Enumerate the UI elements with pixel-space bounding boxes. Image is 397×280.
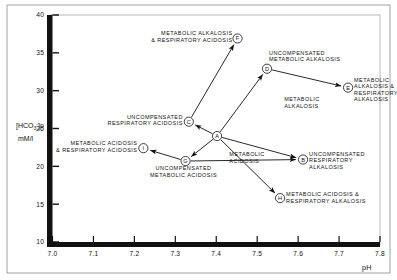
y-tick-label: 10 [36, 238, 44, 245]
data-point-a: A [212, 131, 221, 140]
point-label-line-e: RESPIRATORY [354, 90, 397, 96]
region-label-line: ACIDOSIS [229, 158, 259, 164]
point-label-line-e: ALKALOSIS [354, 96, 388, 102]
point-label-line-d: UNCOMPENSATED [269, 50, 325, 56]
x-axis-spine [47, 242, 380, 247]
region-label-line: METABOLIC [284, 96, 319, 102]
point-letter: F [236, 35, 240, 41]
point-letter: E [346, 85, 350, 91]
chart-svg: 10152025303540 7.07.17.27.37.47.57.67.77… [0, 0, 397, 280]
point-letter: D [265, 66, 269, 72]
data-point-b: B [298, 155, 307, 164]
region-label-line: ALKALOSIS [284, 103, 318, 109]
x-tick-label: 7.8 [375, 250, 385, 257]
point-label-line-c: RESPIRATORY ACIDOSIS [108, 120, 183, 126]
point-letter: B [301, 157, 305, 163]
point-label-line-b: UNCOMPENSATED [309, 151, 365, 157]
data-point-f: F [233, 34, 242, 43]
data-point-i: I [139, 144, 148, 153]
point-label-line-e: ALKALOSIS & [354, 83, 394, 89]
point-label-line-i: METABOLIC ACIDOSIS [70, 140, 137, 146]
data-point-e: E [343, 83, 352, 92]
point-letter: A [215, 133, 219, 139]
point-label-line-e: METABOLIC [354, 77, 389, 83]
y-tick-label: 30 [36, 87, 44, 94]
x-tick-label: 7.7 [334, 250, 344, 257]
data-point-d: D [262, 64, 271, 73]
y-tick-label: 20 [36, 163, 44, 170]
point-label-line-g: UNCOMPENSATED [156, 165, 212, 171]
y-tick-label: 40 [36, 11, 44, 18]
point-label-line-i: & RESPIRATORY ACIDOSIS [56, 147, 137, 153]
x-tick-label: 7.1 [89, 250, 99, 257]
region-label-line: METABOLIC [229, 151, 264, 157]
point-label-line-g: METABOLIC ACIDOSIS [150, 172, 217, 178]
y-tick-label: 35 [36, 49, 44, 56]
x-tick-label: 7.2 [129, 250, 139, 257]
x-tick-label: 7.0 [48, 250, 58, 257]
y-tick-label: 15 [36, 201, 44, 208]
y-axis-title-line2: mM/l [18, 135, 34, 142]
y-axis-spine [47, 15, 53, 245]
point-label-line-b: ALKALOSIS [309, 164, 343, 170]
point-letter: C [187, 119, 191, 125]
point-label-line-d: METABOLIC ALKALOSIS [269, 56, 340, 62]
data-point-h: H [276, 194, 285, 203]
point-letter: H [278, 195, 282, 201]
data-point-c: C [184, 117, 193, 126]
point-label-line-b: RESPIRATORY [309, 157, 353, 163]
x-axis-title: pH [362, 263, 372, 272]
point-label-line-h: RESPIRATORY ALKALOSIS [286, 198, 366, 204]
acid-base-nomogram-figure: 10152025303540 7.07.17.27.37.47.57.67.77… [0, 0, 397, 280]
point-label-line-f: METABOLIC ALKALOSIS [161, 30, 232, 36]
point-label-line-c: UNCOMPENSATED [127, 114, 183, 120]
point-label-line-h: METABOLIC ACIDOSIS & [286, 191, 359, 197]
point-label-line-f: & RESPIRATORY ACIDOSIS [151, 37, 232, 43]
point-letter: G [183, 158, 187, 164]
x-tick-label: 7.3 [170, 250, 180, 257]
x-tick-label: 7.4 [211, 250, 221, 257]
x-tick-label: 7.5 [252, 250, 262, 257]
x-tick-label: 7.6 [293, 250, 303, 257]
